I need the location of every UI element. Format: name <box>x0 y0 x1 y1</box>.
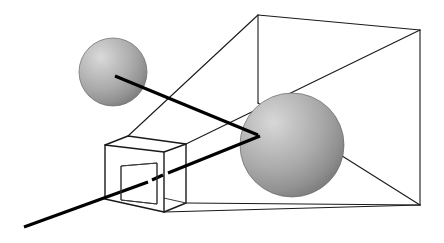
frustum-edge-near-bottom-to-far-bottom-right <box>164 205 420 212</box>
large-sphere <box>240 93 344 197</box>
camera-box <box>105 136 186 212</box>
far-plane-top-edge <box>258 15 420 30</box>
small-sphere <box>79 38 147 106</box>
scene-canvas <box>0 0 444 243</box>
incident-ray <box>115 76 258 135</box>
small-sphere-group <box>79 38 147 106</box>
ray-tracing-diagram: Pinhole camera ray tracing diagram Pinho… <box>0 0 444 243</box>
large-sphere-group <box>240 93 344 197</box>
frustum-edge-bottom-back-to-far-bottom-right <box>186 203 420 205</box>
